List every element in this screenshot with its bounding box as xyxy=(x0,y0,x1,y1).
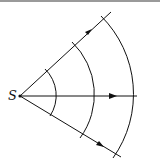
ray-upper xyxy=(20,12,111,96)
rays xyxy=(20,12,137,157)
ray-lower xyxy=(20,96,121,157)
wavefront-middle xyxy=(72,42,94,138)
arrow-icon-middle xyxy=(109,93,117,99)
source-point xyxy=(18,94,21,97)
arrow-icon-upper xyxy=(85,29,92,35)
arrow-icon-lower xyxy=(96,141,104,147)
source-label: S xyxy=(8,88,17,103)
wavefront-diagram: S xyxy=(0,0,160,166)
wavefront-inner xyxy=(45,69,56,116)
arrowheads xyxy=(85,29,117,147)
wavefronts xyxy=(45,16,133,158)
wavefront-outer xyxy=(101,16,133,158)
